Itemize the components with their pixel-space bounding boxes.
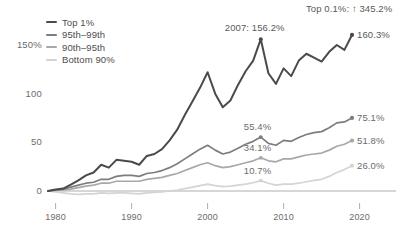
annotation-peak-2007: 2007: 156.2%: [225, 22, 285, 33]
legend-swatch-icon-1: [46, 34, 57, 36]
series-end-dot-3: [350, 164, 354, 168]
legend-label-1: 95th–99th: [62, 29, 105, 40]
mid-label-3: 10.7%: [244, 165, 271, 176]
x-tick-label-1980: 1980: [31, 212, 81, 222]
x-tick-label-2020: 2020: [335, 212, 385, 222]
annotation-top-0-1-percent: Top 0.1%: ↑ 345.2%: [306, 3, 392, 14]
mid-label-2: 34.1%: [244, 142, 271, 153]
legend-swatch-icon-0: [46, 21, 57, 23]
legend-swatch-icon-3: [46, 59, 57, 61]
peak-2007-dot: [259, 37, 263, 41]
y-tick-label-0: 0: [37, 185, 42, 196]
y-tick-label-150: 150%: [17, 39, 42, 50]
legend-item-0[interactable]: Top 1%: [46, 16, 115, 29]
y-tick-label-50: 50: [31, 136, 42, 147]
legend-item-1[interactable]: 95th–99th: [46, 29, 115, 42]
legend-label-0: Top 1%: [62, 17, 94, 28]
end-label-3: 26.0%: [357, 160, 384, 171]
x-tick-label-2000: 2000: [183, 212, 233, 222]
series-end-dot-2: [350, 138, 354, 142]
end-label-2: 51.8%: [357, 135, 384, 146]
end-label-0: 160.3%: [357, 29, 390, 40]
series-end-dot-1: [350, 116, 354, 120]
series-line-3: [48, 166, 352, 195]
series-mid-dot-3: [259, 179, 263, 183]
legend-item-3[interactable]: Bottom 90%: [46, 54, 115, 67]
series-mid-dot-1: [259, 135, 263, 139]
y-tick-label-100: 100: [26, 88, 42, 99]
end-label-1: 75.1%: [357, 112, 384, 123]
legend-swatch-icon-2: [46, 46, 57, 48]
mid-label-1: 55.4%: [244, 121, 271, 132]
series-mid-dot-2: [259, 156, 263, 160]
x-axis-ticks: [56, 203, 360, 209]
series-end-markers: [259, 33, 354, 183]
legend-label-3: Bottom 90%: [62, 54, 115, 65]
legend-label-2: 90th–95th: [62, 42, 105, 53]
line-chart: 050100150% 19801990200020102020 Top 1%95…: [0, 0, 406, 238]
x-tick-label-1990: 1990: [107, 212, 157, 222]
series-end-dot-0: [350, 33, 354, 37]
series-line-2: [48, 141, 352, 191]
x-tick-label-2010: 2010: [259, 212, 309, 222]
chart-legend: Top 1%95th–99th90th–95thBottom 90%: [46, 16, 115, 66]
legend-item-2[interactable]: 90th–95th: [46, 41, 115, 54]
